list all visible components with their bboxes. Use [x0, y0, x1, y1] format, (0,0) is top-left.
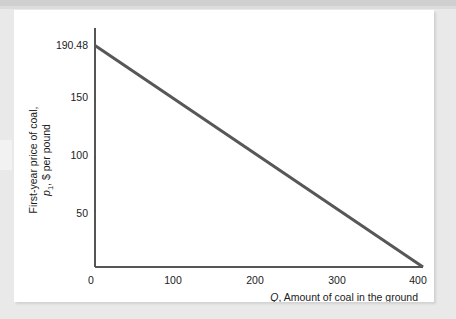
y-tick-label-100: 100	[70, 149, 88, 161]
x-axis-title: Q, Amount of coal in the ground	[270, 291, 418, 302]
y-axis-title-line1: First-year price of coal,	[27, 107, 39, 214]
y-axis-title-rest: , $ per pound	[40, 124, 52, 186]
x-tick-label-200: 200	[246, 274, 264, 286]
demand-curve	[95, 46, 423, 268]
x-tick-label-0: 0	[88, 274, 94, 286]
y-tick-label-190: 190.48	[56, 39, 88, 51]
x-axis-title-rest: , Amount of coal in the ground	[278, 291, 418, 302]
y-tick-label-150: 150	[70, 91, 88, 103]
coal-price-chart: 190.48 150 100 50 0 100 200 300 400 Q, A…	[14, 10, 434, 302]
x-axis-title-symbol: Q	[270, 291, 278, 302]
figure-panel: 190.48 150 100 50 0 100 200 300 400 Q, A…	[14, 10, 434, 302]
y-tick-label-50: 50	[76, 207, 88, 219]
y-axis-title-line2: p1, $ per pound	[40, 124, 55, 197]
x-tick-label-400: 400	[409, 274, 427, 286]
x-tick-label-100: 100	[164, 274, 182, 286]
x-tick-label-300: 300	[328, 274, 346, 286]
